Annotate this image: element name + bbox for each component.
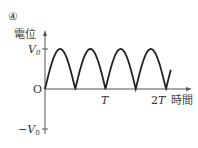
neg-v0-label: −V0 (18, 123, 40, 137)
v0-label: V0 (28, 43, 41, 57)
y-axis-arrow-icon (43, 30, 47, 36)
y-axis-label: 電位 (14, 27, 36, 41)
t-tick-label: T (101, 94, 110, 107)
origin-label: O (33, 83, 42, 96)
2t-tick-label: 2T (151, 94, 167, 107)
rectified-wave-chart: ④ 電位 V0 O −V0 T 2T 時間 (0, 0, 198, 148)
figure-label: ④ (8, 10, 18, 23)
x-axis-arrow-icon (186, 87, 192, 91)
waveform-line (45, 49, 171, 89)
x-axis-label: 時間 (171, 94, 193, 107)
